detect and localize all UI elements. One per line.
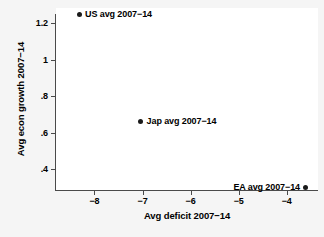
x-tick-label: −5 bbox=[219, 196, 259, 206]
y-tick-mark bbox=[51, 169, 55, 170]
y-tick-mark bbox=[51, 96, 55, 97]
data-point-label-ea: EA avg 2007−14 bbox=[233, 183, 300, 192]
x-axis-title: Avg deficit 2007−14 bbox=[56, 210, 318, 221]
data-point-marker-us bbox=[77, 12, 82, 17]
data-point-label-us: US avg 2007−14 bbox=[85, 10, 152, 19]
y-tick-mark bbox=[51, 60, 55, 61]
y-axis-title: Avg econ growth 2007−14 bbox=[14, 8, 28, 190]
plot-area bbox=[56, 8, 318, 190]
y-tick-mark bbox=[51, 23, 55, 24]
x-tick-label: −7 bbox=[123, 196, 163, 206]
x-tick-label: −8 bbox=[74, 196, 114, 206]
x-tick-mark bbox=[143, 191, 144, 195]
scatter-plot-figure: −8−7−6−5−4 .4.6.811.2 US avg 2007−14Jap … bbox=[0, 0, 324, 237]
x-tick-label: −4 bbox=[267, 196, 307, 206]
y-axis-line bbox=[55, 14, 56, 191]
data-point-label-jap: Jap avg 2007−14 bbox=[147, 117, 217, 126]
x-tick-mark bbox=[191, 191, 192, 195]
y-tick-mark bbox=[51, 133, 55, 134]
x-tick-label: −6 bbox=[171, 196, 211, 206]
x-tick-mark bbox=[94, 191, 95, 195]
